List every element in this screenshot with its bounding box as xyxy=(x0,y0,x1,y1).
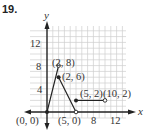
x-axis-arrow-icon xyxy=(128,110,136,115)
closed-point-2-6 xyxy=(57,75,61,79)
open-point-10-2 xyxy=(103,99,107,103)
x-axis-label: x xyxy=(137,105,143,117)
tick-y-8: 8 xyxy=(36,61,41,72)
label-2-8: (2, 8) xyxy=(52,57,75,69)
y-axis-arrow-icon xyxy=(45,21,50,29)
piecewise-graph: y x 12 8 4 8 12 (2, 8) (2, 6) (5, 2) (10… xyxy=(0,0,150,136)
closed-point-0-0 xyxy=(45,110,49,114)
label-10-2: (10, 2) xyxy=(103,88,131,100)
tick-y-4: 4 xyxy=(37,84,43,95)
open-point-5-0 xyxy=(74,110,78,114)
label-0-0: (0, 0) xyxy=(16,115,39,127)
tick-x-12: 12 xyxy=(110,115,121,126)
y-axis-label: y xyxy=(43,9,49,21)
closed-point-5-2 xyxy=(74,98,78,102)
tick-x-8: 8 xyxy=(91,115,96,126)
y-axis-arrow-down-icon xyxy=(45,123,50,130)
x-axis-arrow-left-icon xyxy=(24,110,31,115)
label-2-6: (2, 6) xyxy=(62,71,85,83)
label-5-0: (5, 0) xyxy=(58,115,81,127)
tick-y-12: 12 xyxy=(30,38,41,49)
label-5-2: (5, 2) xyxy=(80,88,103,100)
